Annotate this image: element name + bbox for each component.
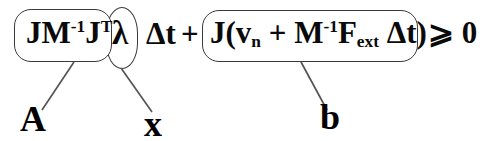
matrix-j2-exponent: T — [101, 17, 113, 36]
rhs-inner-plus: + — [269, 15, 287, 50]
rhs-t-symbol: t — [406, 15, 416, 50]
leader-line-a — [42, 62, 74, 110]
delta-symbol: Δ — [146, 16, 165, 51]
rhs-f-symbol: F — [338, 15, 357, 50]
relation-expression: ⩾ 0 — [428, 17, 477, 48]
rhs-v-subscript: n — [251, 32, 261, 51]
annotation-label-x: x — [144, 106, 162, 141]
t-symbol: t — [165, 16, 175, 51]
rhs-delta-symbol: Δ — [387, 15, 406, 50]
rhs-m-symbol: M — [294, 15, 323, 50]
rhs-close-paren: ) — [417, 15, 427, 50]
rhs-f-subscript: ext — [357, 32, 379, 51]
matrix-m-symbol: M — [42, 15, 71, 50]
rhs-m-exponent: -1 — [323, 17, 337, 36]
equation-figure: JM-1JT λ Δt + J(vn + M-1Fext Δt) ⩾ 0 A x… — [0, 0, 484, 141]
rhs-j-symbol: J — [210, 15, 226, 50]
timestep-expression: Δt — [146, 18, 176, 49]
matrix-m-exponent: -1 — [71, 17, 85, 36]
rhs-open-paren: ( — [226, 15, 236, 50]
matrix-j2-symbol: J — [85, 15, 101, 50]
annotation-label-b: b — [320, 99, 340, 135]
matrix-j-symbol: J — [26, 15, 42, 50]
lambda-symbol: λ — [112, 17, 128, 50]
zero-value: 0 — [462, 15, 478, 50]
matrix-expression: JM-1JT — [26, 17, 112, 48]
greater-equal-operator: ⩾ — [428, 15, 454, 50]
rhs-expression: J(vn + M-1Fext Δt) — [210, 17, 427, 48]
plus-operator: + — [181, 18, 199, 49]
annotation-label-a: A — [20, 101, 46, 137]
rhs-v-symbol: v — [236, 15, 252, 50]
